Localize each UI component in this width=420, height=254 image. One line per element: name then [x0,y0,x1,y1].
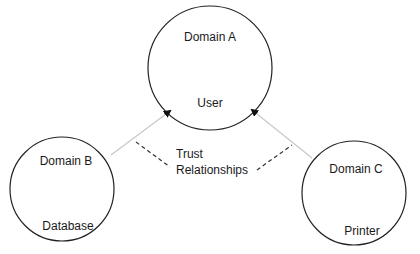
domain-c-resource: Printer [344,224,379,238]
domain-c-label: Domain C [329,162,382,176]
domain-b-label: Domain B [40,154,93,168]
trust-label-line1: Trust [176,146,248,162]
arrow-b-to-a [111,111,170,155]
trust-dashed-line-right [257,145,292,170]
trust-label-line2: Relationships [176,162,248,178]
domain-a-label: Domain A [184,30,236,44]
domain-a-resource: User [197,96,222,110]
trust-dashed-line-left [136,142,170,167]
domain-b-resource: Database [42,219,93,233]
arrow-c-to-a [252,110,312,158]
trust-relationships-label: Trust Relationships [176,146,248,178]
